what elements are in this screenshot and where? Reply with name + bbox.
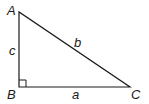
right-angle-marker — [19, 80, 26, 87]
side-label-a: a — [72, 87, 79, 102]
vertex-label-a: A — [6, 3, 16, 18]
side-label-b: b — [74, 35, 81, 50]
side-label-c: c — [9, 43, 16, 58]
vertex-label-c: C — [131, 87, 141, 102]
vertex-label-b: B — [7, 87, 16, 102]
right-triangle-diagram: A B C c b a — [0, 0, 149, 104]
